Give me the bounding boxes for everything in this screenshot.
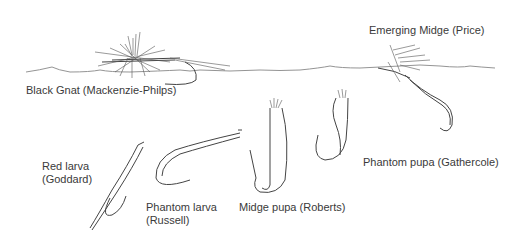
label-midge-pupa: Midge pupa (Roberts)	[239, 201, 345, 214]
black-gnat-fly	[95, 32, 230, 85]
phantom-larva-fly	[156, 130, 242, 185]
fly-illustration: Black Gnat (Mackenzie-Philps) Emerging M…	[0, 0, 522, 243]
label-black-gnat: Black Gnat (Mackenzie-Philps)	[26, 84, 176, 97]
water-surface-line	[26, 65, 495, 72]
emerging-midge-fly	[378, 45, 453, 131]
midge-pupa-fly	[250, 98, 287, 193]
label-red-larva-author: (Goddard)	[42, 173, 92, 186]
label-phantom-larva-author: (Russell)	[146, 214, 189, 227]
label-phantom-pupa: Phantom pupa (Gathercole)	[363, 156, 499, 169]
label-phantom-larva: Phantom larva	[146, 201, 217, 214]
label-emerging-midge: Emerging Midge (Price)	[369, 24, 485, 37]
phantom-pupa-fly	[316, 89, 348, 160]
red-larva-fly	[90, 142, 144, 230]
label-red-larva: Red larva	[42, 160, 89, 173]
